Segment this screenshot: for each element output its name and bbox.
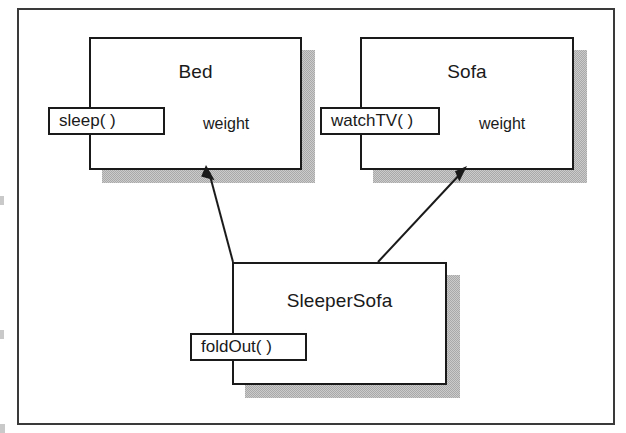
bed-method-box-sleep[interactable]: sleep( )	[48, 107, 165, 135]
scan-artifact-mark	[0, 330, 4, 339]
sofa-attribute-weight: weight	[479, 115, 525, 133]
scan-artifact-mark	[0, 196, 4, 205]
sleepersofa-class-box[interactable]: SleeperSofa	[232, 262, 447, 385]
bed-method-label-sleep: sleep( )	[50, 111, 116, 131]
scan-artifact-mark	[0, 424, 5, 433]
bed-class-box[interactable]: Bed weight	[89, 37, 302, 170]
diagram-page: Bed weight sleep( ) Sofa weight watchTV(…	[0, 0, 626, 433]
diagram-frame: Bed weight sleep( ) Sofa weight watchTV(…	[17, 8, 615, 425]
sleepersofa-method-box-foldout[interactable]: foldOut( )	[190, 333, 307, 361]
sleepersofa-class-name: SleeperSofa	[234, 290, 445, 312]
bed-class-name: Bed	[91, 61, 300, 83]
sofa-class-box[interactable]: Sofa weight	[360, 37, 574, 170]
sleepersofa-method-label-foldout: foldOut( )	[192, 337, 272, 357]
sofa-method-label-watchtv: watchTV( )	[322, 111, 413, 131]
bed-attribute-weight: weight	[203, 115, 249, 133]
sofa-class-name: Sofa	[362, 61, 572, 83]
sofa-method-box-watchtv[interactable]: watchTV( )	[320, 107, 440, 135]
